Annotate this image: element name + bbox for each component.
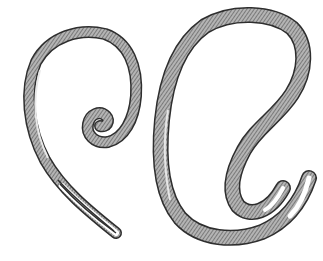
worms-drawing [0,0,323,261]
right-worm [161,15,309,238]
left-worm [29,32,136,233]
illustration [0,0,323,261]
